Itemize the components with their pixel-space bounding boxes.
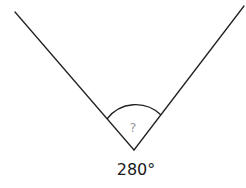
- unknown-angle-marker: ?: [130, 120, 137, 135]
- left-ray: [15, 12, 134, 150]
- angle-label: 280°: [117, 160, 156, 179]
- right-ray: [134, 6, 244, 150]
- angle-figure: ? 280°: [0, 0, 246, 188]
- angle-diagram: ? 280°: [0, 0, 246, 188]
- angle-arc: [107, 105, 161, 119]
